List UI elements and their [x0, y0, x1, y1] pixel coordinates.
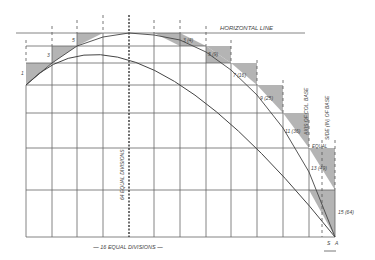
- step-label-2: 5 (9): [208, 51, 219, 57]
- side-of-base-label: SIDE (IN) OF BASE: [324, 95, 330, 140]
- parabola-curve-exact: [26, 33, 335, 237]
- step-label-5: 11 (36): [285, 128, 301, 134]
- center-divisions-label: 64 EQUAL DIVISIONS: [119, 149, 125, 200]
- bottom-divisions-label: — 16 EQUAL DIVISIONS —: [92, 244, 163, 250]
- axis-col-base-label: AXIS OF COL. BASE: [303, 87, 309, 136]
- step-label-3: 7 (16): [233, 72, 246, 78]
- step-label-4: 9 (25): [260, 95, 273, 101]
- point-a-label: A: [334, 240, 339, 246]
- step-label-6: 13 (49): [311, 165, 327, 171]
- parabola-curve: [26, 55, 335, 237]
- step-label-1: 3 (4): [183, 37, 194, 43]
- point-s-label: S: [327, 240, 331, 246]
- parabola-diagram: HORIZONTAL LINE — 16 EQUAL DIVISIONS — 6…: [0, 0, 375, 260]
- step-label-7: 15 (64): [338, 209, 354, 215]
- left-step-label-3: 5: [72, 37, 75, 43]
- equal-label: EQUAL: [312, 144, 328, 149]
- horizontal-line-label: HORIZONTAL LINE: [220, 25, 274, 31]
- left-step-label-1: 1: [21, 70, 24, 76]
- shaded-triangles: [26, 33, 335, 237]
- left-step-label-2: 3: [47, 52, 50, 58]
